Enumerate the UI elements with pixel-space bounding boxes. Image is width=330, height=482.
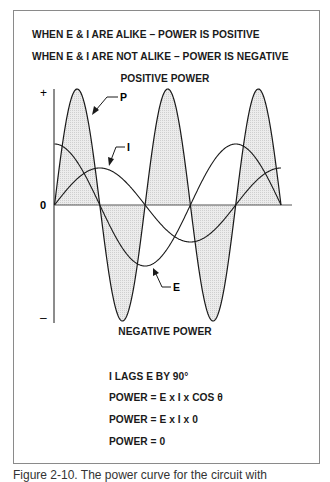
equation-power-result: POWER = 0: [109, 436, 165, 447]
i-leader-arrow: [111, 147, 125, 160]
plus-sign: +: [40, 86, 47, 100]
negative-power-label: NEGATIVE POWER: [0, 326, 330, 337]
zero-label: 0: [40, 199, 46, 211]
equation-power-zero-factor: POWER = E x I x 0: [109, 414, 198, 425]
minus-sign: –: [40, 311, 47, 325]
e-leader-arrow: [156, 274, 171, 287]
p-leader-arrow: [96, 97, 118, 110]
equation-power-cos: POWER = E x I x COS θ: [109, 392, 223, 403]
p-label: P: [120, 91, 127, 103]
i-arrowhead-icon: [108, 157, 114, 166]
e-label: E: [173, 281, 180, 293]
i-label: I: [127, 141, 130, 153]
figure-caption: Figure 2-10. The power curve for the cir…: [13, 468, 267, 482]
equation-lag: I LAGS E BY 90°: [109, 371, 188, 382]
